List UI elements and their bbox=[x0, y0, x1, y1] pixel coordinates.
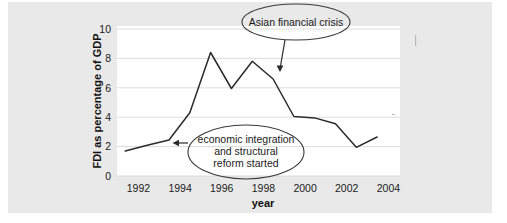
x-tick-label-1994: 1994 bbox=[168, 182, 192, 194]
x-axis-title: year bbox=[252, 197, 275, 209]
y-tick-label-8: 8 bbox=[105, 52, 111, 64]
x-tick-label-2004: 2004 bbox=[377, 182, 401, 194]
y-tick-label-0: 0 bbox=[105, 170, 111, 182]
x-tick-label-2000: 2000 bbox=[293, 182, 317, 194]
x-tick-label-1992: 1992 bbox=[127, 182, 151, 194]
x-tick-label-1996: 1996 bbox=[210, 182, 234, 194]
annotation-label-line-2: and structural bbox=[214, 145, 278, 157]
y-axis-title: FDI as percentage of GDP bbox=[91, 33, 103, 168]
y-tick-label-10: 10 bbox=[99, 23, 111, 35]
scan-artifact-dot bbox=[392, 114, 395, 115]
y-tick-label-6: 6 bbox=[105, 82, 111, 94]
annotation-label-line-1: economic integration bbox=[198, 133, 295, 145]
x-tick-label-2002: 2002 bbox=[335, 182, 359, 194]
x-axis-ticks: 1992 1994 1996 1998 2000 2002 2004 bbox=[127, 182, 401, 194]
scan-artifact-mark bbox=[415, 35, 416, 46]
annotation-label-asian-crisis: Asian financial crisis bbox=[249, 16, 344, 28]
chart-figure: 10 8 6 4 2 0 1992 1994 1996 1998 2000 20… bbox=[0, 0, 507, 223]
x-tick-label-1998: 1998 bbox=[252, 182, 276, 194]
y-tick-label-4: 4 bbox=[105, 111, 111, 123]
y-tick-label-2: 2 bbox=[105, 140, 111, 152]
annotation-label-line-3: reform started bbox=[213, 157, 279, 169]
line-chart: 10 8 6 4 2 0 1992 1994 1996 1998 2000 20… bbox=[0, 0, 507, 223]
